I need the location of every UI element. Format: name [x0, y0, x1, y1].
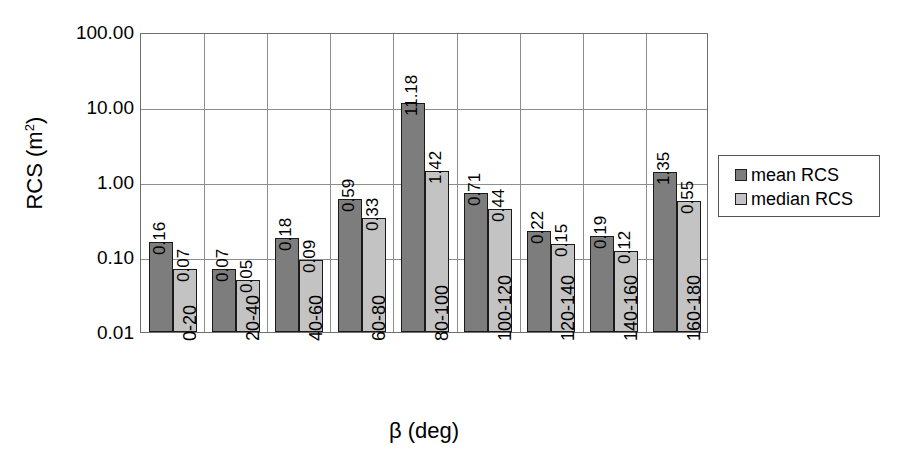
gridline-group-separator — [583, 34, 584, 332]
bar-value-label: 0.44 — [490, 189, 507, 222]
bar-value-label: 0.12 — [616, 231, 633, 264]
x-axis-category-label: 20-40 — [244, 295, 262, 341]
legend-item-label: median RCS — [751, 189, 853, 210]
bar-value-label: 1.42 — [427, 150, 444, 183]
y-axis-tick-label: 0.01 — [48, 323, 134, 342]
gridline-group-separator — [204, 34, 205, 332]
gridline-group-separator — [330, 34, 331, 332]
x-axis-category-label: 120-140 — [559, 275, 577, 341]
bar-value-label: 11.18 — [403, 75, 420, 116]
bar-value-label: 0.07 — [175, 249, 192, 282]
bar-mean — [464, 193, 488, 332]
bar-mean — [653, 172, 677, 332]
y-axis-tick-label: 10.00 — [48, 98, 134, 117]
bar-value-label: 0.05 — [238, 259, 255, 292]
legend-item-label: mean RCS — [751, 165, 839, 186]
bar-value-label: 0.09 — [301, 240, 318, 273]
bar-mean — [338, 199, 362, 332]
bar-mean — [590, 236, 614, 332]
bar-mean — [401, 103, 425, 332]
x-axis-category-label: 80-100 — [433, 285, 451, 341]
bar-mean — [275, 238, 299, 332]
rcs-bar-chart: RCS (m2) 100.0010.001.000.100.01 0.160.0… — [0, 0, 916, 457]
legend-swatch-icon — [735, 193, 747, 205]
bar-value-label: 0.22 — [529, 211, 546, 244]
legend: mean RCSmedian RCS — [718, 155, 880, 217]
y-axis-title-text: RCS (m — [22, 131, 47, 209]
x-axis-category-label: 40-60 — [307, 295, 325, 341]
bar-value-label: 0.19 — [592, 216, 609, 249]
bar-value-label: 0.15 — [553, 224, 570, 257]
legend-item: mean RCS — [735, 163, 879, 187]
bar-mean — [149, 242, 173, 332]
x-axis-title: β (deg) — [140, 418, 708, 444]
x-axis-category-label: 140-160 — [622, 275, 640, 341]
gridline-group-separator — [457, 34, 458, 332]
x-axis-category-label: 160-180 — [685, 275, 703, 341]
x-axis-category-label: 100-120 — [496, 275, 514, 341]
y-axis-tick-labels: 100.0010.001.000.100.01 — [46, 0, 134, 457]
y-axis-title-exponent: 2 — [22, 124, 37, 131]
gridline-group-separator — [267, 34, 268, 332]
y-axis-title-close: ) — [22, 117, 47, 124]
bar-value-label: 1.35 — [655, 152, 672, 185]
y-axis-title: RCS (m2) — [22, 83, 48, 243]
bar-value-label: 0.59 — [340, 179, 357, 212]
x-axis-category-label: 0-20 — [181, 305, 199, 341]
bar-value-label: 0.55 — [679, 181, 696, 214]
gridline-group-separator — [393, 34, 394, 332]
y-axis-tick-label: 1.00 — [48, 173, 134, 192]
y-axis-tick-label: 100.00 — [48, 23, 134, 42]
x-axis-category-label: 60-80 — [370, 295, 388, 341]
legend-swatch-icon — [735, 169, 747, 181]
gridline-group-separator — [520, 34, 521, 332]
bar-value-label: 0.16 — [151, 222, 168, 255]
gridline-group-separator — [646, 34, 647, 332]
bar-value-label: 0.18 — [277, 218, 294, 251]
y-axis-tick-label: 0.10 — [48, 248, 134, 267]
legend-item: median RCS — [735, 187, 879, 211]
bar-mean — [527, 231, 551, 332]
bar-value-label: 0.33 — [364, 198, 381, 231]
bar-value-label: 0.71 — [466, 173, 483, 206]
bar-value-label: 0.07 — [214, 249, 231, 282]
